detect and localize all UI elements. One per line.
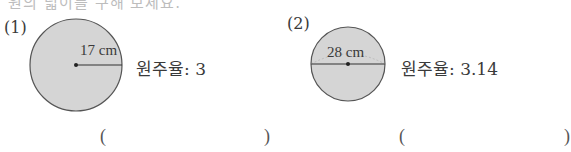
circle-figure-diameter (311, 27, 385, 101)
answer-1-close-paren: ) (264, 126, 270, 147)
answer-2-close-paren: ) (564, 126, 570, 147)
answer-2-open-paren: ( (399, 126, 405, 147)
center-dot (346, 62, 350, 66)
answer-1-open-paren: ( (100, 126, 106, 147)
diameter-label: 28 cm (327, 44, 364, 61)
center-dot (74, 63, 78, 67)
pi-value-1: 원주율: 3 (136, 55, 206, 80)
radius-label: 17 cm (80, 42, 117, 59)
answer-2-blank[interactable] (412, 126, 562, 146)
circle-figure-radius (30, 19, 122, 111)
problem-2-number: (2) (287, 14, 310, 33)
pi-value-2: 원주율: 3.14 (401, 55, 498, 80)
answer-1-blank[interactable] (112, 126, 262, 146)
